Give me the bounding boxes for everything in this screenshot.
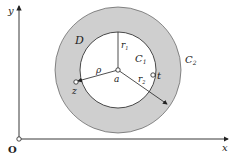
point-z-label: z bbox=[71, 86, 77, 96]
annulus-diagram: y x O D C1 C2 a z t ρ r1 r2 bbox=[0, 0, 232, 161]
rho-label: ρ bbox=[95, 65, 102, 75]
point-z bbox=[74, 80, 78, 84]
y-axis-label: y bbox=[7, 5, 14, 16]
region-label-d: D bbox=[74, 34, 84, 47]
origin-label: O bbox=[8, 144, 17, 155]
origin-point bbox=[17, 137, 21, 141]
point-t bbox=[151, 73, 155, 77]
outer-circle-label: C2 bbox=[185, 54, 197, 66]
x-axis-label: x bbox=[222, 142, 228, 153]
center-point-a bbox=[116, 68, 120, 72]
center-label-a: a bbox=[114, 74, 119, 84]
